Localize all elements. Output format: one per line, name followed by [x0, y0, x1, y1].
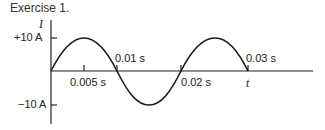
- tick-label-001: 0.01 s: [115, 52, 145, 64]
- tick-label-002: 0.02 s: [181, 76, 211, 88]
- pos-peak-label: +10 A: [14, 31, 42, 43]
- neg-peak-label: −10 A: [18, 98, 46, 110]
- tick-label-0005: 0.005 s: [70, 76, 106, 88]
- y-axis-label: I: [39, 17, 43, 32]
- tick-label-003: 0.03 s: [246, 52, 276, 64]
- sine-wave-diagram: [0, 0, 325, 130]
- x-axis-label: t: [246, 76, 249, 91]
